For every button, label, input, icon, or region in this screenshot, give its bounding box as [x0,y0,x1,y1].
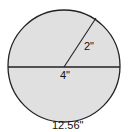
diameter-label: 4" [60,69,70,81]
circle-diagram: 2" 4" 12.56" [0,0,128,132]
radius-label: 2" [84,40,94,52]
circumference-label: 12.56" [52,119,84,131]
